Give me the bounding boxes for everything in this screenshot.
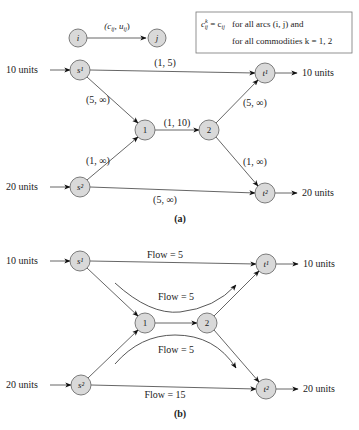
- a-node-t2-label: t²: [262, 188, 268, 198]
- b-arc-2-t1: [214, 271, 259, 316]
- a-supply-s1: 10 units: [6, 64, 38, 75]
- b-demand-t1: 10 units: [303, 258, 335, 269]
- a-arc-1-2-label: (1, 10): [164, 117, 191, 129]
- a-arc-s1-t1: [90, 70, 255, 73]
- b-arc-s1-1: [87, 268, 138, 316]
- panel-a: 10 units 20 units 10 units 20 units (1, …: [6, 57, 334, 225]
- a-arc-s2-t2-label: (5, ∞): [153, 194, 177, 206]
- b-node-s2-label: s²: [78, 380, 85, 390]
- legend-node-j-label: j: [155, 33, 159, 43]
- a-arc-s2-t2: [90, 187, 255, 193]
- a-demand-t1: 10 units: [302, 67, 334, 78]
- legend-box-line1: for all arcs (i, j) and: [232, 19, 304, 29]
- a-arc-s1-1-label: (5, ∞): [86, 94, 110, 106]
- b-caption: (b): [174, 408, 186, 420]
- b-node-2-label: 2: [205, 318, 210, 328]
- a-node-s1-label: s¹: [77, 65, 84, 75]
- b-node-s1-label: s¹: [77, 256, 84, 266]
- panel-b: 10 units 20 units 10 units 20 units Flow…: [6, 249, 335, 420]
- a-node-t1-label: t¹: [262, 68, 268, 78]
- a-arc-2-t1-label: (5, ∞): [243, 97, 267, 109]
- b-flow-s2-t2-label: Flow = 15: [144, 389, 185, 400]
- b-node-t2-label: t²: [263, 384, 269, 394]
- b-arc-2-t2: [214, 330, 259, 382]
- b-node-t1-label: t¹: [263, 259, 269, 269]
- b-node-1-label: 1: [143, 318, 148, 328]
- a-node-1-label: 1: [143, 125, 148, 135]
- a-supply-s2: 20 units: [6, 181, 38, 192]
- b-arc-s2-1: [88, 330, 138, 378]
- a-demand-t2: 20 units: [302, 187, 334, 198]
- legend-arc-label: (cij, uij): [104, 21, 130, 32]
- b-supply-s1: 10 units: [6, 255, 38, 266]
- a-arc-s2-1-label: (1, ∞): [86, 155, 110, 167]
- a-caption: (a): [174, 213, 186, 225]
- a-node-s2-label: s²: [77, 182, 84, 192]
- legend-box: ckij = cij for all arcs (i, j) and for a…: [196, 12, 352, 53]
- b-flow-s2-path-label: Flow = 5: [158, 344, 194, 355]
- a-arc-s1-t1-label: (1, 5): [154, 57, 176, 69]
- b-flow-s1-t1-label: Flow = 5: [147, 249, 183, 260]
- a-node-2-label: 2: [207, 125, 212, 135]
- legend: i j (cij, uij): [69, 21, 166, 47]
- b-supply-s2: 20 units: [6, 379, 38, 390]
- b-arc-s1-t1: [90, 261, 256, 264]
- b-flow-s1-path-label: Flow = 5: [158, 291, 194, 302]
- multicommodity-flow-diagram: i j (cij, uij) ckij = cij for all arcs (…: [0, 0, 359, 430]
- legend-box-line2: for all commodities k = 1, 2: [232, 36, 332, 46]
- b-demand-t2: 20 units: [303, 383, 335, 394]
- a-arc-2-t2-label: (1, ∞): [243, 156, 267, 168]
